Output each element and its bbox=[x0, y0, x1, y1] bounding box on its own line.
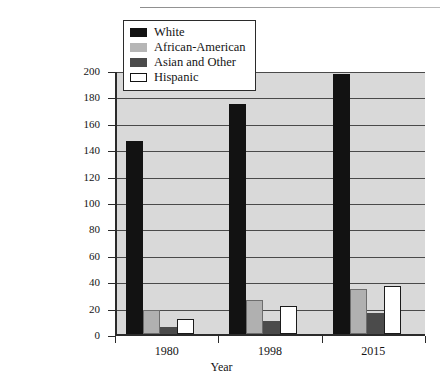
bar-1998-asian-and-other bbox=[263, 321, 280, 334]
y-tick-mark-100 bbox=[108, 204, 115, 205]
bar-1998-african-american bbox=[246, 300, 263, 334]
swatch-dark-gray-icon bbox=[130, 58, 147, 67]
gridline-100 bbox=[117, 204, 425, 205]
gridline-80 bbox=[117, 230, 425, 231]
legend-label: African-American bbox=[154, 41, 246, 54]
y-tick-mark-0 bbox=[108, 336, 115, 337]
y-tick-label-20: 20 bbox=[60, 304, 100, 315]
gridline-160 bbox=[117, 125, 425, 126]
y-tick-mark-60 bbox=[108, 257, 115, 258]
legend-item-white: White bbox=[130, 25, 246, 40]
bar-1980-white bbox=[126, 141, 143, 334]
y-tick-mark-200 bbox=[108, 72, 115, 73]
legend-item-african-american: African-American bbox=[130, 40, 246, 55]
gridline-20 bbox=[117, 310, 425, 311]
y-tick-mark-160 bbox=[108, 125, 115, 126]
y-tick-label-80: 80 bbox=[60, 224, 100, 235]
x-tick-mark-3 bbox=[425, 336, 426, 343]
bar-1998-hispanic bbox=[280, 306, 297, 334]
y-tick-label-140: 140 bbox=[60, 145, 100, 156]
bar-2015-hispanic bbox=[384, 286, 401, 334]
y-tick-label-200: 200 bbox=[60, 66, 100, 77]
bar-1980-hispanic bbox=[177, 319, 194, 334]
x-tick-label-2015: 2015 bbox=[338, 344, 408, 359]
y-tick-label-40: 40 bbox=[60, 277, 100, 288]
legend-label: Asian and Other bbox=[154, 56, 236, 69]
x-axis-title: Year bbox=[0, 360, 443, 375]
x-tick-mark-1 bbox=[218, 336, 219, 343]
y-tick-label-100: 100 bbox=[60, 198, 100, 209]
x-tick-mark-2 bbox=[322, 336, 323, 343]
y-tick-label-180: 180 bbox=[60, 92, 100, 103]
bar-2015-asian-and-other bbox=[367, 313, 384, 334]
legend-label: Hispanic bbox=[154, 71, 198, 84]
legend-item-hispanic: Hispanic bbox=[130, 70, 246, 85]
page-rule-divider bbox=[140, 7, 440, 8]
gridline-120 bbox=[117, 178, 425, 179]
y-tick-label-120: 120 bbox=[60, 172, 100, 183]
legend-item-asian-and-other: Asian and Other bbox=[130, 55, 246, 70]
legend-label: White bbox=[154, 26, 185, 39]
gridline-180 bbox=[117, 98, 425, 99]
x-tick-label-1998: 1998 bbox=[235, 344, 305, 359]
bar-2015-white bbox=[333, 74, 350, 334]
gridline-140 bbox=[117, 151, 425, 152]
y-tick-mark-140 bbox=[108, 151, 115, 152]
swatch-light-gray-icon bbox=[130, 43, 147, 52]
bar-1980-african-american bbox=[143, 310, 160, 334]
y-tick-mark-20 bbox=[108, 310, 115, 311]
bar-2015-african-american bbox=[350, 289, 367, 334]
y-tick-label-60: 60 bbox=[60, 251, 100, 262]
bar-1980-asian-and-other bbox=[160, 327, 177, 334]
y-tick-mark-40 bbox=[108, 283, 115, 284]
y-tick-label-0: 0 bbox=[60, 330, 100, 341]
gridline-40 bbox=[117, 283, 425, 284]
swatch-white-outline-icon bbox=[130, 73, 147, 82]
y-tick-label-160: 160 bbox=[60, 119, 100, 130]
x-tick-mark-0 bbox=[115, 336, 116, 343]
y-tick-mark-120 bbox=[108, 178, 115, 179]
legend: WhiteAfrican-AmericanAsian and OtherHisp… bbox=[123, 20, 256, 91]
bar-chart-figure: Number of Employed (millions) 0204060801… bbox=[0, 0, 443, 381]
plot-area bbox=[115, 72, 425, 336]
gridline-60 bbox=[117, 257, 425, 258]
y-tick-mark-180 bbox=[108, 98, 115, 99]
y-tick-mark-80 bbox=[108, 230, 115, 231]
x-tick-label-1980: 1980 bbox=[132, 344, 202, 359]
swatch-black-icon bbox=[130, 28, 147, 37]
bar-1998-white bbox=[229, 104, 246, 334]
